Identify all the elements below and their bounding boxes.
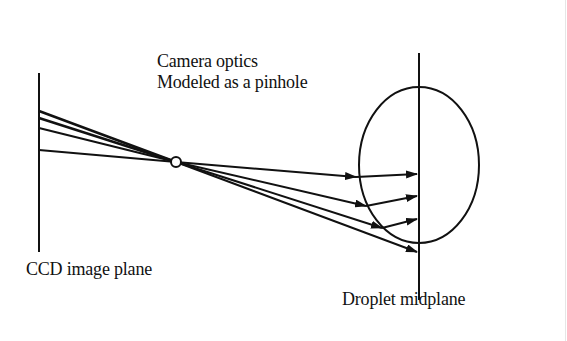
ray-1	[176, 162, 356, 177]
optics-diagram: Camera optics Modeled as a pinhole CCD i…	[0, 0, 567, 341]
ccd-label: CCD image plane	[26, 259, 152, 279]
optics-label-line1: Camera optics	[157, 51, 258, 71]
refracted-ray-1	[356, 174, 417, 177]
pinhole-icon	[171, 157, 181, 167]
ray-2	[176, 162, 366, 206]
midplane-label: Droplet midplane	[342, 289, 465, 309]
ray-3	[176, 162, 382, 228]
refracted-ray-3	[382, 219, 417, 228]
optics-label-line2: Modeled as a pinhole	[157, 72, 307, 92]
diagram-graphic	[0, 0, 567, 341]
refracted-ray-2	[366, 196, 417, 206]
edge-divider	[565, 0, 566, 341]
